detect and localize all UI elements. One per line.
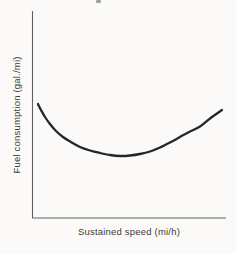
- fuel-consumption-curve: [38, 104, 222, 156]
- fuel-consumption-chart: Fuel consumption (gal./mi) Sustained spe…: [0, 0, 236, 254]
- chart-canvas: [0, 0, 236, 254]
- x-axis-label: Sustained speed (mi/h): [32, 226, 226, 237]
- y-axis-label: Fuel consumption (gal./mi): [11, 56, 22, 173]
